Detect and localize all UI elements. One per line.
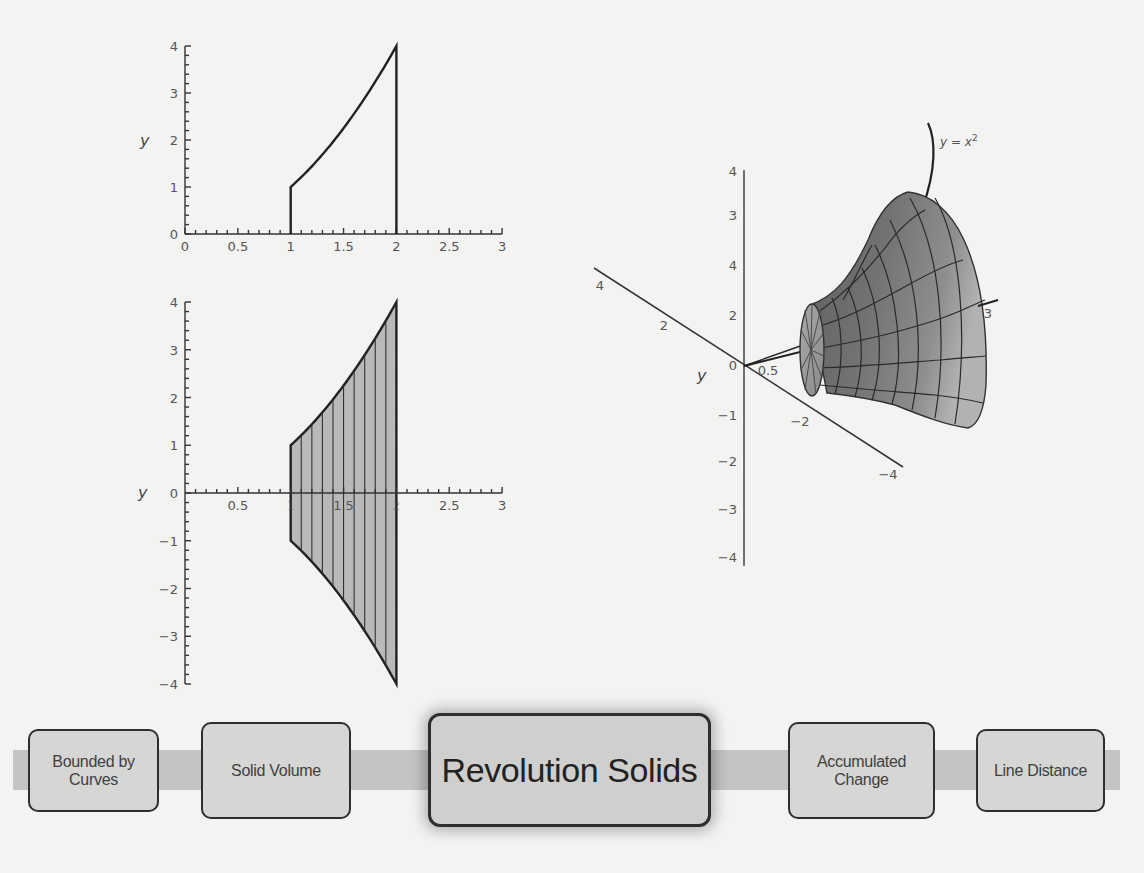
bottom-plot-y-label: y bbox=[137, 483, 148, 502]
nav-line-distance[interactable]: Line Distance bbox=[976, 729, 1105, 812]
y-tick-label: 1 bbox=[170, 180, 178, 195]
x-tick-label: 0.5 bbox=[228, 498, 249, 513]
vertical-tick-label: 4 bbox=[729, 258, 737, 273]
x-tick-label: 0.5 bbox=[758, 363, 779, 378]
nav-label: Line Distance bbox=[994, 762, 1087, 780]
x-tick-label: 1.5 bbox=[333, 239, 354, 254]
x-tick-label: 1.5 bbox=[333, 498, 354, 513]
x-tick-label: 1 bbox=[287, 239, 295, 254]
top-plot: 00.511.522.5301234 y bbox=[139, 39, 506, 254]
depth-tick-label: −2 bbox=[790, 414, 809, 429]
y-tick-label: 4 bbox=[170, 295, 178, 310]
nav-label-line: Accumulated bbox=[817, 753, 906, 771]
y-tick-label: 3 bbox=[170, 343, 178, 358]
curve-equation-label: y = x2 bbox=[939, 133, 978, 149]
solid-3d-plot: 43420−1−2−3−442−2−40.53 y y = x2 bbox=[594, 123, 998, 566]
depth-tick-label: 2 bbox=[660, 318, 668, 333]
vertical-tick-label: 2 bbox=[729, 308, 737, 323]
y-tick-label: 2 bbox=[170, 391, 178, 406]
nav-label-line: Change bbox=[817, 771, 906, 789]
vertical-tick-label: 3 bbox=[729, 208, 737, 223]
depth-tick-label: −4 bbox=[878, 467, 897, 482]
top-plot-y-label: y bbox=[139, 131, 150, 150]
top-plot-ticklabels: 00.511.522.5301234 bbox=[170, 39, 507, 254]
vertical-tick-label: −2 bbox=[718, 454, 737, 469]
nav-label-line: Bounded by bbox=[52, 753, 134, 771]
vertical-tick-label: −3 bbox=[718, 502, 737, 517]
vertical-tick-label: 0 bbox=[729, 358, 737, 373]
x-tick-label: 0 bbox=[181, 239, 189, 254]
generating-curve bbox=[923, 123, 933, 206]
y-tick-label: 2 bbox=[170, 133, 178, 148]
x-tick-label: 2 bbox=[392, 498, 400, 513]
y-tick-label: −4 bbox=[159, 677, 178, 692]
y-tick-label: 3 bbox=[170, 86, 178, 101]
x-tick-label: 3 bbox=[498, 498, 506, 513]
y-tick-label: 1 bbox=[170, 438, 178, 453]
nav-solid-volume[interactable]: Solid Volume bbox=[201, 722, 351, 819]
vertical-tick-label: −4 bbox=[718, 550, 737, 565]
x-tick-label: 2 bbox=[392, 239, 400, 254]
solid-y-label: y bbox=[696, 366, 707, 385]
x-tick-label: 3 bbox=[984, 306, 992, 321]
vertical-tick-label: 4 bbox=[729, 164, 737, 179]
y-tick-label: 4 bbox=[170, 39, 178, 54]
nav-label: Solid Volume bbox=[231, 762, 321, 780]
bottom-plot: 0.511.522.5343210−1−2−3−4 y bbox=[137, 295, 506, 692]
vertical-tick-label: −1 bbox=[718, 408, 737, 423]
x-tick-label: 1 bbox=[287, 498, 295, 513]
nav-bounded-by-curves[interactable]: Bounded by Curves bbox=[28, 729, 159, 812]
y-tick-label: −1 bbox=[159, 534, 178, 549]
top-plot-axes bbox=[185, 46, 502, 234]
x-tick-label: 3 bbox=[498, 239, 506, 254]
x-tick-label: 2.5 bbox=[439, 498, 460, 513]
nav-accumulated-change[interactable]: Accumulated Change bbox=[788, 722, 935, 819]
bottom-plot-axes bbox=[185, 302, 502, 684]
x-tick-label: 2.5 bbox=[439, 239, 460, 254]
depth-tick-label: 4 bbox=[596, 278, 604, 293]
nav-label-line: Curves bbox=[52, 771, 134, 789]
nav-label: Revolution Solids bbox=[442, 751, 698, 789]
y-tick-label: 0 bbox=[170, 486, 178, 501]
nav-revolution-solids[interactable]: Revolution Solids bbox=[428, 713, 711, 827]
y-tick-label: 0 bbox=[170, 227, 178, 242]
y-tick-label: −2 bbox=[159, 582, 178, 597]
y-tick-label: −3 bbox=[159, 629, 178, 644]
x-tick-label: 0.5 bbox=[228, 239, 249, 254]
top-plot-curve bbox=[291, 46, 397, 234]
